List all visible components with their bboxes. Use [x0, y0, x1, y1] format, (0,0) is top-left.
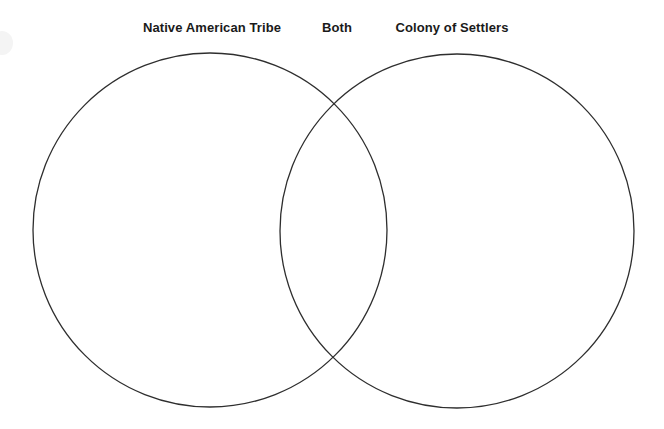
venn-circle-left[interactable]	[33, 53, 387, 407]
venn-diagram-canvas	[0, 0, 664, 429]
venn-label-middle: Both	[322, 21, 352, 35]
venn-circle-right[interactable]	[280, 54, 634, 408]
venn-label-left: Native American Tribe	[143, 21, 281, 35]
venn-diagram-page: Native American Tribe Both Colony of Set…	[0, 0, 664, 429]
venn-label-right: Colony of Settlers	[395, 21, 508, 35]
